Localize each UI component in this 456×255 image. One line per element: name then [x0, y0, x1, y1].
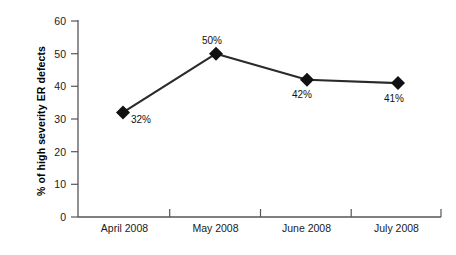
series-markers	[116, 47, 405, 120]
line-chart: % of high severity ER defects 0 10 20 30…	[0, 0, 456, 255]
y-tick-label-10: 10	[38, 178, 66, 190]
data-point-marker	[300, 73, 314, 87]
y-tick-label-0: 0	[38, 211, 66, 223]
y-tick-marks	[71, 21, 78, 217]
x-tick-label-may: May 2008	[170, 222, 261, 234]
y-tick-label-40: 40	[38, 80, 66, 92]
y-tick-label-30: 30	[38, 113, 66, 125]
data-point-marker	[391, 76, 405, 90]
data-point-marker	[209, 47, 223, 61]
y-tick-label-20: 20	[38, 146, 66, 158]
data-label-april: 32%	[131, 114, 151, 125]
x-tick-label-june: June 2008	[261, 222, 352, 234]
x-tick-marks	[170, 209, 441, 217]
chart-canvas	[0, 0, 456, 255]
series-line	[123, 54, 398, 113]
data-label-june: 42%	[292, 89, 312, 100]
x-tick-label-april: April 2008	[79, 222, 170, 234]
x-tick-label-july: July 2008	[351, 222, 442, 234]
data-label-july: 41%	[384, 93, 404, 104]
data-label-may: 50%	[202, 35, 222, 46]
y-tick-label-60: 60	[38, 15, 66, 27]
y-tick-label-50: 50	[38, 48, 66, 60]
data-point-marker	[116, 105, 130, 119]
